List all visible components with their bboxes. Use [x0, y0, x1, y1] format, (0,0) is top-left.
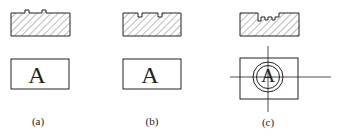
panel-a-section-view — [11, 10, 70, 36]
panel-c-letter: A — [261, 65, 275, 87]
panel-b-section-view — [123, 13, 181, 36]
panel-c-section-view — [240, 13, 299, 36]
panel-a-letter: A — [28, 62, 45, 89]
panel-c-caption: (c) — [262, 116, 274, 128]
panel-b-letter: A — [141, 62, 158, 89]
figure-canvas — [0, 0, 339, 138]
panel-b-caption: (b) — [146, 115, 159, 127]
panel-a-caption: (a) — [32, 115, 44, 127]
panel-c-plan-view — [230, 46, 331, 112]
